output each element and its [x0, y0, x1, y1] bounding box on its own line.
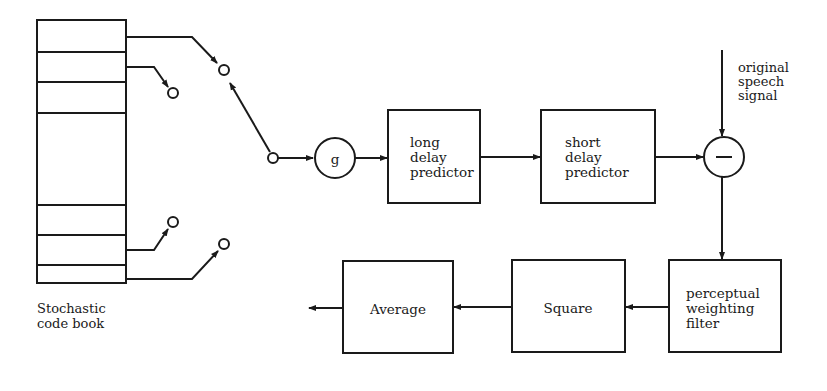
- perceptual-weighting-filter-block: perceptual weighting filter: [669, 260, 781, 352]
- codebook-label-line1: Stochastic: [37, 301, 106, 316]
- short-delay-line2: delay: [565, 149, 602, 165]
- gain-label: g: [331, 151, 340, 167]
- long-delay-line3: predictor: [410, 164, 474, 180]
- long-delay-predictor-block: long delay predictor: [388, 110, 480, 203]
- long-delay-line1: long: [410, 134, 440, 150]
- gain-node: g: [315, 138, 355, 178]
- subtractor-node: [704, 137, 744, 177]
- square-block: Square: [512, 260, 625, 352]
- perceptual-filter-line3: filter: [686, 315, 720, 331]
- selector-switch-arm: [230, 83, 278, 163]
- square-label: Square: [543, 300, 592, 316]
- original-speech-line3: signal: [738, 88, 777, 103]
- celp-block-diagram: Stochastic code book g long delay predic…: [0, 0, 827, 391]
- average-label: Average: [369, 301, 426, 317]
- perceptual-filter-line2: weighting: [686, 300, 755, 316]
- codebook-switch-contacts: [126, 37, 229, 279]
- stochastic-codebook: [37, 20, 126, 283]
- long-delay-line2: delay: [410, 149, 447, 165]
- average-block: Average: [343, 261, 453, 353]
- original-speech-line2: speech: [738, 74, 785, 89]
- codebook-label-line2: code book: [37, 316, 104, 331]
- perceptual-filter-line1: perceptual: [686, 285, 760, 301]
- original-speech-line1: original: [738, 60, 789, 75]
- short-delay-predictor-block: short delay predictor: [541, 110, 655, 203]
- short-delay-line3: predictor: [565, 164, 629, 180]
- short-delay-line1: short: [565, 134, 601, 150]
